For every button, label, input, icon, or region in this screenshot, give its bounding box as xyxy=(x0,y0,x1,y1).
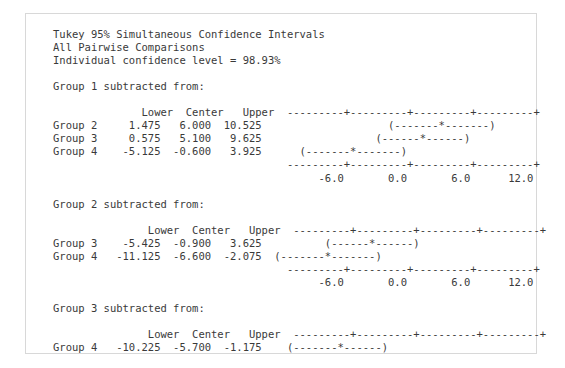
confidence-level-line: Individual confidence level = 98.93% xyxy=(53,54,546,67)
interval-row-1-3: Group 4 -5.125 -0.600 3.925 (-------*---… xyxy=(53,145,546,158)
report-title: Tukey 95% Simultaneous Confidence Interv… xyxy=(53,28,546,41)
report-spacer xyxy=(53,289,546,302)
tukey-report: Tukey 95% Simultaneous Confidence Interv… xyxy=(53,28,546,354)
report-spacer xyxy=(53,315,546,328)
axis-labels-2: -6.0 0.0 6.0 12.0 xyxy=(53,276,546,289)
output-panel: Tukey 95% Simultaneous Confidence Interv… xyxy=(25,13,537,354)
interval-row-3-1: Group 4 -10.225 -5.700 -1.175 (-------*-… xyxy=(53,341,546,354)
interval-row-2-2: Group 4 -11.125 -6.600 -2.075 (-------*-… xyxy=(53,250,546,263)
report-spacer xyxy=(53,211,546,224)
axis-rule-2: ---------+---------+---------+---------+ xyxy=(53,263,546,276)
axis-rule-1: ---------+---------+---------+---------+ xyxy=(53,158,546,171)
interval-row-1-1: Group 2 1.475 6.000 10.525 (-------*----… xyxy=(53,119,546,132)
axis-labels-1: -6.0 0.0 6.0 12.0 xyxy=(53,172,546,185)
section-title-1: Group 1 subtracted from: xyxy=(53,80,546,93)
section-title-2: Group 2 subtracted from: xyxy=(53,198,546,211)
report-subtitle: All Pairwise Comparisons xyxy=(53,41,546,54)
section-column-header-3: Lower Center Upper ---------+---------+-… xyxy=(53,328,546,341)
interval-row-1-2: Group 3 0.575 5.100 9.625 (------*------… xyxy=(53,132,546,145)
interval-row-2-1: Group 3 -5.425 -0.900 3.625 (------*----… xyxy=(53,237,546,250)
report-spacer xyxy=(53,67,546,80)
section-column-header-1: Lower Center Upper ---------+---------+-… xyxy=(53,106,546,119)
report-spacer xyxy=(53,185,546,198)
section-column-header-2: Lower Center Upper ---------+---------+-… xyxy=(53,224,546,237)
report-spacer xyxy=(53,93,546,106)
section-title-3: Group 3 subtracted from: xyxy=(53,302,546,315)
